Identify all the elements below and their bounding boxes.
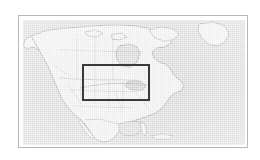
study-area-box[interactable] (82, 64, 150, 101)
map-frame (18, 15, 248, 148)
map-canvas[interactable] (23, 20, 245, 145)
map-figure (0, 0, 260, 160)
